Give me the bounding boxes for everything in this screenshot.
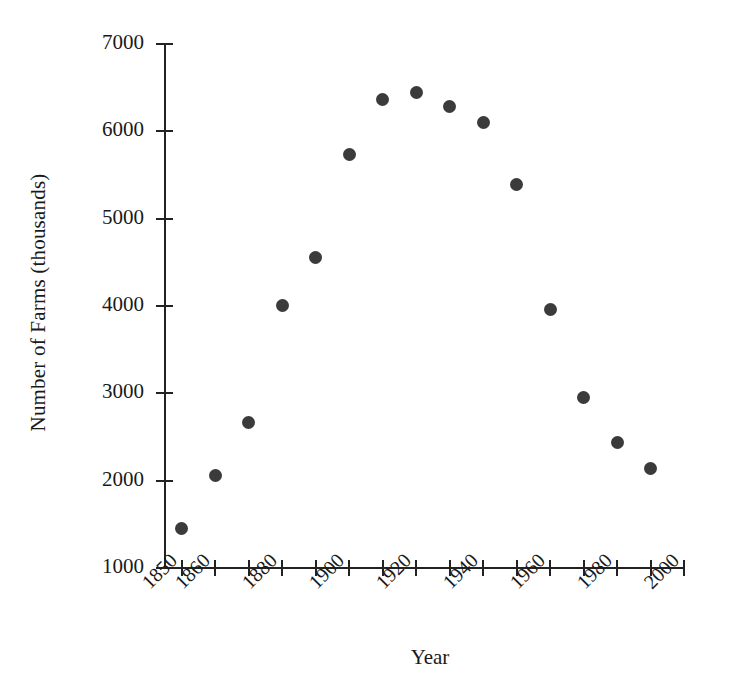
x-tick-mark <box>616 560 618 576</box>
x-tick-label: 1860 <box>171 550 213 592</box>
y-tick-label: 4000 <box>58 294 144 315</box>
data-point <box>376 93 389 106</box>
x-tick-label: 2000 <box>640 550 682 592</box>
data-point <box>611 436 624 449</box>
data-point <box>343 148 356 161</box>
y-tick-mark <box>156 130 173 132</box>
y-tick-mark <box>156 218 173 220</box>
x-tick-mark <box>214 560 216 576</box>
y-tick-mark <box>156 480 173 482</box>
x-tick-label: 1880 <box>238 550 280 592</box>
x-tick-mark <box>482 560 484 576</box>
y-tick-label: 5000 <box>58 207 144 228</box>
data-point <box>242 416 255 429</box>
data-point <box>276 299 289 312</box>
y-tick-label: 3000 <box>58 381 144 402</box>
x-tick-label: 1980 <box>573 550 615 592</box>
y-tick-label: 1000 <box>58 556 144 577</box>
x-tick-mark <box>281 560 283 576</box>
y-axis-title: Number of Farms (thousands) <box>26 113 51 493</box>
data-point <box>309 251 322 264</box>
scatter-chart: Number of Farms (thousands) Year 7000600… <box>0 0 733 683</box>
y-tick-label: 7000 <box>58 32 144 53</box>
data-point <box>644 462 657 475</box>
x-tick-label: 1960 <box>506 550 548 592</box>
x-tick-mark <box>549 560 551 576</box>
data-point <box>209 469 222 482</box>
data-point <box>443 100 456 113</box>
x-tick-mark <box>415 560 417 576</box>
y-tick-mark <box>156 43 173 45</box>
y-tick-mark <box>156 305 173 307</box>
x-tick-mark <box>683 560 685 576</box>
data-point <box>410 86 423 99</box>
x-tick-label: 1900 <box>305 550 347 592</box>
y-tick-label: 2000 <box>58 469 144 490</box>
data-point <box>175 522 188 535</box>
y-tick-mark <box>156 392 173 394</box>
x-tick-label: 1850 <box>138 550 180 592</box>
x-tick-mark <box>348 560 350 576</box>
x-axis-title: Year <box>150 645 710 670</box>
y-tick-label: 6000 <box>58 119 144 140</box>
data-point <box>477 116 490 129</box>
data-point <box>544 303 557 316</box>
data-point <box>510 178 523 191</box>
x-tick-label: 1940 <box>439 550 481 592</box>
data-point <box>577 391 590 404</box>
x-tick-label: 1920 <box>372 550 414 592</box>
